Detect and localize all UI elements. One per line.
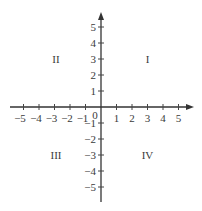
x-label-5: 5 xyxy=(176,112,182,124)
x-label-neg5: −5 xyxy=(14,112,26,124)
y-label-4: 4 xyxy=(91,37,97,49)
y-label-neg4: −4 xyxy=(84,165,96,177)
x-label-neg3: −3 xyxy=(46,112,58,124)
y-label-neg1: −1 xyxy=(84,117,96,129)
quadrant-III-label: III xyxy=(51,149,62,161)
y-label-1: 1 xyxy=(91,85,97,97)
y-label-2: 2 xyxy=(91,69,97,81)
x-label-neg4: −4 xyxy=(30,112,42,124)
quadrant-IV-label: IV xyxy=(142,149,154,161)
x-label-3: 3 xyxy=(145,112,151,124)
quadrant-I-label: I xyxy=(146,53,150,65)
quadrant-II-label: II xyxy=(52,53,60,65)
y-label-neg2: −2 xyxy=(84,133,96,145)
x-label-neg2: −2 xyxy=(61,112,73,124)
x-axis-arrow-icon xyxy=(186,104,194,110)
x-label-4: 4 xyxy=(160,112,166,124)
x-label-1: 1 xyxy=(114,112,120,124)
x-label-2: 2 xyxy=(129,112,135,124)
coordinate-plane: −5 −4 −3 −2 −1 1 2 3 4 5 0 5 4 3 2 1 −1 … xyxy=(0,0,202,211)
y-axis-arrow-icon xyxy=(98,12,104,20)
y-label-neg3: −3 xyxy=(84,149,96,161)
y-label-neg5: −5 xyxy=(84,181,96,193)
y-label-5: 5 xyxy=(91,21,97,33)
y-label-3: 3 xyxy=(91,53,97,65)
x-axis-labels: −5 −4 −3 −2 −1 1 2 3 4 5 xyxy=(14,112,182,124)
